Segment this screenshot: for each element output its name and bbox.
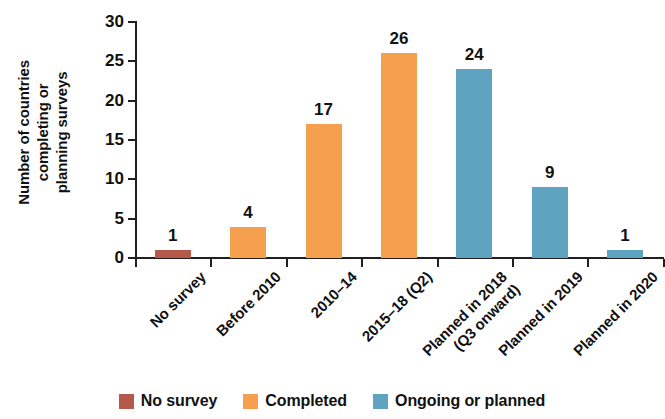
- x-axis-tick: [286, 259, 288, 267]
- bar[interactable]: 26: [381, 53, 417, 258]
- x-axis-tick: [663, 259, 665, 267]
- legend-swatch-icon: [373, 394, 388, 409]
- y-axis-tick: [128, 60, 135, 62]
- legend: No surveyCompletedOngoing or planned: [0, 392, 664, 410]
- legend-item[interactable]: Ongoing or planned: [373, 392, 545, 410]
- plot-area: 0510152025301417262491: [135, 22, 664, 258]
- y-axis-tick-label: 15: [105, 130, 124, 150]
- x-axis-tick: [135, 259, 137, 267]
- y-axis-tick: [128, 257, 135, 259]
- legend-label: No survey: [141, 392, 217, 410]
- x-axis-tick: [437, 259, 439, 267]
- y-axis-tick: [128, 21, 135, 23]
- bar-value-label: 4: [243, 203, 252, 223]
- y-axis-tick: [128, 139, 135, 141]
- bar[interactable]: 4: [230, 227, 266, 258]
- y-axis-tick: [128, 178, 135, 180]
- legend-label: Completed: [265, 392, 347, 410]
- y-axis-tick-label: 25: [105, 51, 124, 71]
- bar[interactable]: 1: [155, 250, 191, 258]
- legend-item[interactable]: Completed: [243, 392, 347, 410]
- y-axis-tick-label: 0: [115, 248, 124, 268]
- bar-value-label: 1: [168, 226, 177, 246]
- x-axis-tick: [587, 259, 589, 267]
- legend-swatch-icon: [243, 394, 258, 409]
- bar[interactable]: 17: [306, 124, 342, 258]
- y-axis-tick-label: 10: [105, 169, 124, 189]
- legend-swatch-icon: [119, 394, 134, 409]
- bar[interactable]: 9: [532, 187, 568, 258]
- y-axis-title: Number of countries completing or planni…: [15, 17, 72, 247]
- bar-value-label: 26: [389, 29, 408, 49]
- legend-item[interactable]: No survey: [119, 392, 217, 410]
- bar-value-label: 17: [314, 100, 333, 120]
- x-axis-tick: [512, 259, 514, 267]
- bar-value-label: 24: [465, 45, 484, 65]
- y-axis-tick-label: 5: [115, 209, 124, 229]
- y-axis-tick-label: 30: [105, 12, 124, 32]
- x-axis-tick: [361, 259, 363, 267]
- bar[interactable]: 1: [607, 250, 643, 258]
- y-axis-tick-label: 20: [105, 91, 124, 111]
- bar-value-label: 9: [545, 163, 554, 183]
- y-axis-tick: [128, 100, 135, 102]
- y-axis-tick: [128, 218, 135, 220]
- bar-value-label: 1: [620, 226, 629, 246]
- legend-label: Ongoing or planned: [395, 392, 545, 410]
- bar[interactable]: 24: [456, 69, 492, 258]
- x-axis-tick: [210, 259, 212, 267]
